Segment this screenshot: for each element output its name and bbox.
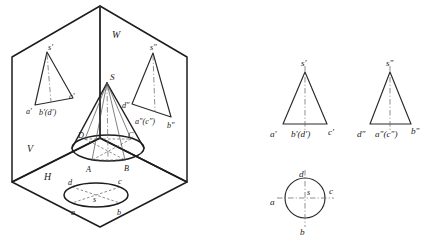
top-view-label-s: s	[307, 188, 310, 197]
cone-right-generatrix	[107, 83, 144, 148]
top-view-label-d: d	[299, 169, 304, 179]
frontal-plane-V	[12, 6, 100, 182]
h-proj-label-b: b	[117, 208, 121, 217]
cone-solid-group: S D C A B	[72, 72, 144, 174]
h-proj-label-s: s	[93, 195, 96, 204]
base-diagonal-CA	[92, 139, 131, 160]
cone-generatrix-to-D	[85, 83, 107, 139]
frontal-apex-label: s'	[48, 43, 53, 52]
plane-label-W: W	[112, 29, 121, 40]
side-view-label-ac: a"(c")	[375, 129, 398, 139]
frontal-projection-triangle	[35, 52, 73, 105]
cone-generatrix-to-B	[107, 83, 125, 160]
front-view-label-bd: b'(d')	[291, 129, 310, 139]
top-view-label-c: c	[329, 186, 333, 196]
frontal-label-a: a'	[26, 107, 32, 116]
horizontal-projection-group: d c a b s	[64, 177, 128, 217]
h-proj-label-a: a	[71, 208, 75, 217]
solid-label-A: A	[85, 165, 92, 174]
figure-caption	[0, 236, 426, 243]
projection-diagram: V H W s' a' b'(d') c' s" d" a"(c") b"	[0, 0, 426, 243]
h-proj-label-c: c	[118, 177, 122, 186]
figure-root: V H W s' a' b'(d') c' s" d" a"(c") b"	[0, 0, 426, 243]
frontal-projection-axis	[47, 54, 51, 102]
solid-label-D: D	[77, 131, 84, 140]
profile-projection-triangle	[132, 53, 171, 117]
profile-label-d: d"	[122, 101, 130, 110]
front-view-apex-label: s'	[301, 58, 308, 68]
solid-label-C: C	[128, 131, 134, 140]
frontal-projection-group: s' a' b'(d') c'	[26, 43, 75, 117]
plane-label-H: H	[43, 171, 52, 182]
side-view-triangle	[370, 72, 411, 124]
profile-apex-label: s"	[150, 43, 157, 52]
front-view-group: s' a' b'(d') c'	[270, 58, 335, 139]
profile-label-b: b"	[167, 121, 175, 130]
frontal-label-c: c'	[69, 92, 75, 101]
front-view-label-c: c'	[328, 127, 335, 137]
plane-label-V: V	[27, 143, 34, 154]
profile-label-ac: a"(c")	[135, 117, 155, 126]
cone-axis	[107, 85, 108, 158]
side-view-apex-label: s"	[386, 58, 394, 68]
h-proj-label-d: d	[68, 178, 73, 187]
side-view-label-d: d"	[357, 129, 366, 139]
frontal-label-bd: b'(d')	[39, 108, 56, 117]
side-view-group: s" d" a"(c") b"	[357, 58, 420, 139]
solid-apex-label-S: S	[110, 72, 115, 82]
solid-label-B: B	[124, 164, 129, 173]
pictorial-projection-box: V H W s' a' b'(d') c' s" d" a"(c") b"	[12, 6, 187, 227]
base-diagonal-DB	[85, 139, 125, 160]
profile-projection-group: s" d" a"(c") b"	[122, 43, 175, 130]
front-view-label-a: a'	[270, 129, 278, 139]
top-view-label-a: a	[270, 197, 275, 207]
profile-projection-axis	[153, 55, 155, 112]
top-view-group: d b a c s	[270, 169, 334, 237]
side-view-label-b: b"	[411, 126, 420, 136]
